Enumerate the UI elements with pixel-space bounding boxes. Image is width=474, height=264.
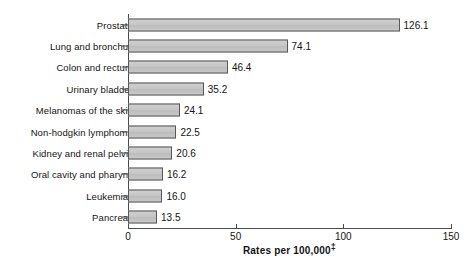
bar-rows: Prostate126.1Lung and bronchus74.1Colon … (0, 14, 474, 228)
x-axis-tick-label: 150 (443, 231, 460, 242)
x-axis-tick-label: 50 (230, 231, 241, 242)
category-label: Non-hodgkin lymphoma (31, 126, 133, 137)
category-label: Lung and bronchus (50, 41, 133, 52)
x-axis-tick (343, 224, 344, 229)
bar-row: Leukemias16.0 (0, 185, 474, 206)
bar-row: Kidney and renal pelvis20.6 (0, 142, 474, 163)
x-axis-title-text: Rates per 100,000 (243, 245, 331, 256)
bar-value-label: 20.6 (172, 148, 195, 159)
bar-value-label: 13.5 (157, 212, 180, 223)
bar (128, 40, 288, 53)
bar-row: Melanomas of the skin24.1 (0, 100, 474, 121)
bar (128, 189, 162, 202)
x-axis-tick-label: 0 (125, 231, 131, 242)
bar-row: Oral cavity and pharynx16.2 (0, 164, 474, 185)
bar-chart: Prostate126.1Lung and bronchus74.1Colon … (0, 0, 474, 264)
x-axis-tick (451, 224, 452, 229)
x-axis-tick-label: 100 (335, 231, 352, 242)
bar (128, 104, 180, 117)
bar-row: Pancreas13.5 (0, 207, 474, 228)
x-axis-title: Rates per 100,000‡ (128, 245, 451, 256)
bar (128, 18, 400, 31)
category-label: Oral cavity and pharynx (31, 169, 133, 180)
bar-value-label: 35.2 (204, 83, 227, 94)
bar (128, 61, 228, 74)
bar-row: Lung and bronchus74.1 (0, 35, 474, 56)
bar (128, 168, 163, 181)
bar (128, 211, 157, 224)
bar-value-label: 46.4 (228, 62, 251, 73)
bar-value-label: 16.0 (162, 190, 185, 201)
bar-value-label: 24.1 (180, 105, 203, 116)
bar-value-label: 74.1 (288, 41, 311, 52)
bar-row: Colon and rectum46.4 (0, 57, 474, 78)
bar (128, 82, 204, 95)
category-label: Melanomas of the skin (36, 105, 133, 116)
bar (128, 125, 176, 138)
category-label: Kidney and renal pelvis (32, 148, 133, 159)
bar-row: Non-hodgkin lymphoma22.5 (0, 121, 474, 142)
x-axis-line (128, 228, 451, 229)
bar-row: Urinary bladder35.2 (0, 78, 474, 99)
x-axis-tick (128, 224, 129, 229)
bar-value-label: 126.1 (400, 19, 429, 30)
bar-row: Prostate126.1 (0, 14, 474, 35)
x-axis-title-footnote: ‡ (331, 242, 336, 252)
bar-value-label: 16.2 (163, 169, 186, 180)
bar-value-label: 22.5 (176, 126, 199, 137)
x-axis-tick (236, 224, 237, 229)
bar (128, 147, 172, 160)
